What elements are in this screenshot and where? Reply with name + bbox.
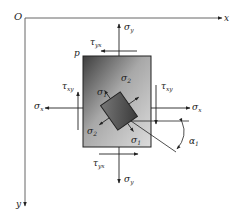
top-stresses: σy τyx <box>90 22 137 56</box>
sigma-x-right-label: σx <box>192 102 202 113</box>
tau-xy-right-label: τxy <box>161 81 173 93</box>
tau-yx-top-label: τyx <box>90 37 102 49</box>
point-label: p <box>74 48 80 58</box>
x-axis-label: x <box>224 13 229 23</box>
y-axis-label: y <box>15 199 22 209</box>
alpha1-label: α1 <box>189 136 199 147</box>
origin-label: O <box>14 11 22 22</box>
sigma-x-left-label: σx <box>34 101 44 112</box>
tau-yx-bottom-label: τyx <box>93 158 105 170</box>
tau-xy-left-label: τxy <box>62 81 74 93</box>
right-stresses: σx τxy <box>151 81 202 124</box>
sigma-y-bottom-label: σy <box>124 174 134 186</box>
stress-diagram: O x y p σy τyx σx τxy σx τxy τyx σy <box>0 0 233 216</box>
bottom-stresses: τyx σy <box>93 147 138 186</box>
sigma-y-top-label: σy <box>124 22 134 34</box>
left-stresses: σx τxy <box>34 81 83 130</box>
angle-arc <box>177 122 184 149</box>
